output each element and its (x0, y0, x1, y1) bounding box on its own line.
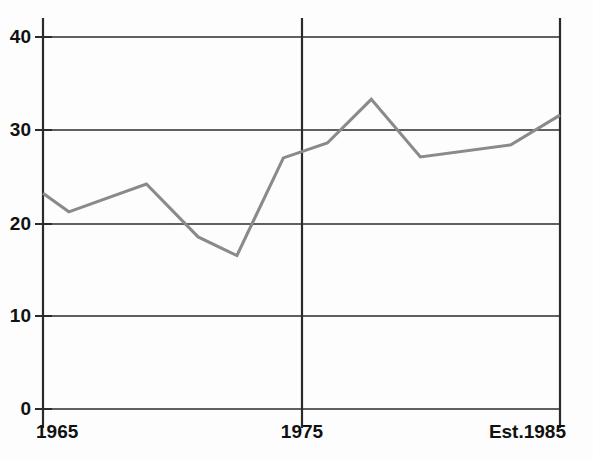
x-gridlines (43, 18, 560, 428)
x-tick-label-1975: 1975 (281, 421, 324, 442)
y-tick-label-30: 30 (10, 119, 31, 140)
line-chart: 40 30 20 10 0 1965 1975 Est.1985 (0, 0, 593, 460)
y-tick-label-40: 40 (10, 26, 31, 47)
y-tick-label-10: 10 (10, 305, 31, 326)
y-tick-label-0: 0 (20, 398, 31, 419)
x-tick-label-1965: 1965 (36, 421, 79, 442)
chart-container: 40 30 20 10 0 1965 1975 Est.1985 (0, 0, 593, 460)
y-tick-label-20: 20 (10, 213, 31, 234)
x-tick-label-est-1985: Est.1985 (489, 421, 567, 442)
